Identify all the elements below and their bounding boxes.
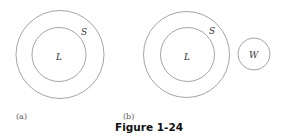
set-w-label-b: W (249, 50, 259, 60)
set-s-label-b: S (209, 26, 215, 36)
panel-b-label: (b) (123, 112, 134, 121)
venn-figure: S L (a) S L W (b) Figure 1-24 (0, 0, 282, 136)
figure-caption: Figure 1-24 (115, 121, 183, 133)
set-l-label-a: L (55, 52, 62, 62)
panel-a: S L (a) (16, 11, 104, 122)
panel-a-label: (a) (16, 112, 27, 121)
panel-b: S L W (b) (123, 12, 270, 122)
set-s-label-a: S (81, 27, 87, 37)
set-l-label-b: L (183, 52, 190, 62)
